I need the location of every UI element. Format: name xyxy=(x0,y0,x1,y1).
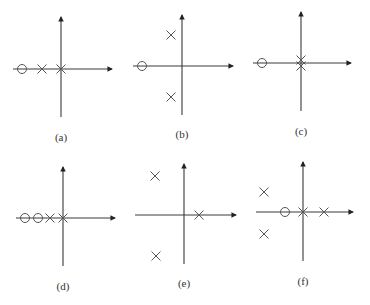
subplot-label: (a) xyxy=(55,131,68,144)
pole-zero-plot-d: (d) xyxy=(16,167,115,293)
pole-marker-icon xyxy=(167,93,176,102)
pole-zero-plot-c: (c) xyxy=(253,12,351,138)
pole-zero-figure: (a)(b)(c)(d)(e)(f) xyxy=(0,0,370,305)
pole-marker-icon xyxy=(152,252,161,261)
pole-zero-plot-a: (a) xyxy=(13,17,112,144)
pole-marker-icon xyxy=(260,188,269,197)
pole-zero-plot-e: (e) xyxy=(135,164,236,290)
pole-marker-icon xyxy=(167,31,176,40)
pole-marker-icon xyxy=(151,172,160,181)
plots-container: (a)(b)(c)(d)(e)(f) xyxy=(13,12,353,293)
pole-marker-icon xyxy=(260,230,269,239)
subplot-label: (f) xyxy=(298,275,309,288)
subplot-label: (e) xyxy=(178,277,191,290)
pole-zero-plot-f: (f) xyxy=(256,162,353,288)
subplot-label: (c) xyxy=(295,125,308,138)
pole-zero-plot-b: (b) xyxy=(133,15,233,141)
subplot-label: (b) xyxy=(176,128,189,141)
subplot-label: (d) xyxy=(57,280,70,293)
